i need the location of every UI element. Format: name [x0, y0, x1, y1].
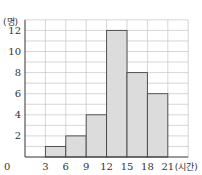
x-tick-label: 6: [63, 161, 69, 172]
y-tick-label: 2: [15, 130, 21, 141]
histogram-bar-18~21: [147, 94, 167, 157]
y-tick-label: 4: [15, 109, 21, 120]
y-tick-label: 6: [15, 88, 21, 99]
x-tick-label: 18: [141, 161, 154, 172]
y-axis-unit-label: (명): [3, 17, 18, 27]
histogram-bar-15~18: [127, 73, 147, 157]
histogram-bar-3~6: [45, 146, 65, 157]
x-tick-label: 9: [83, 161, 89, 172]
x-tick-label: 21: [161, 161, 174, 172]
histogram-bar-12~15: [107, 30, 127, 157]
histogram-bar-9~12: [86, 115, 106, 157]
histogram-bar-6~9: [66, 136, 86, 157]
histogram-chart: 36912151821(시간)24681012 (명) 0: [0, 0, 202, 175]
y-tick-label: 10: [8, 46, 21, 57]
x-tick-label: 3: [42, 161, 48, 172]
origin-label: 0: [4, 161, 10, 172]
x-tick-label: 15: [121, 161, 134, 172]
x-axis-unit-label: (시간): [175, 162, 198, 172]
x-tick-label: 12: [100, 161, 113, 172]
y-tick-label: 8: [15, 67, 21, 78]
